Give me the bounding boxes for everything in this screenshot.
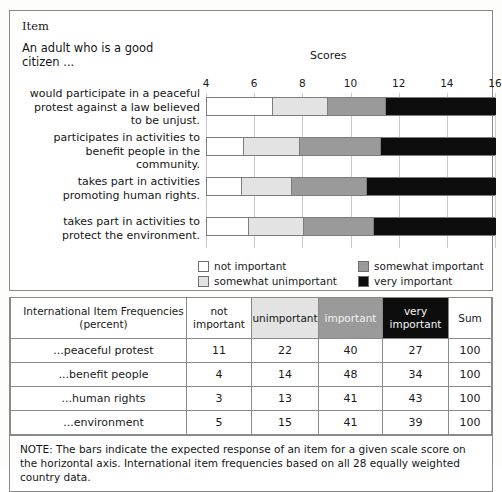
table-header-unimportant: unimportant bbox=[252, 298, 319, 339]
bar-segment-somewhat-unimportant bbox=[243, 138, 298, 155]
table-header-important: important bbox=[319, 298, 383, 339]
bar-row bbox=[206, 97, 495, 116]
table-cell: 14 bbox=[252, 363, 319, 387]
legend-label: somewhat important bbox=[374, 260, 484, 272]
bar-row-label: takes part in activities promoting human… bbox=[24, 175, 200, 202]
table-cell: 43 bbox=[383, 387, 449, 411]
x-tick-label: 12 bbox=[392, 77, 405, 89]
table-row: ...environment5154139100 bbox=[11, 411, 492, 435]
bar-row bbox=[206, 137, 495, 156]
bar-row-label: would participate in a peaceful protest … bbox=[24, 87, 200, 128]
stacked-bar bbox=[206, 217, 495, 236]
table-cell: 41 bbox=[319, 387, 383, 411]
legend-label: somewhat unimportant bbox=[214, 275, 337, 287]
bar-segment-very-important bbox=[385, 98, 496, 115]
table-cell: 48 bbox=[319, 363, 383, 387]
table-cell: 100 bbox=[449, 339, 492, 363]
table-cell: 40 bbox=[319, 339, 383, 363]
table-corner-header: International Item Frequencies (percent) bbox=[11, 298, 187, 339]
bar-segment-not-important bbox=[207, 218, 248, 235]
table-header-very-important: very important bbox=[383, 298, 449, 339]
table-cell: 100 bbox=[449, 411, 492, 435]
bar-row-labels: would participate in a peaceful protest … bbox=[20, 93, 200, 248]
table-cell: 100 bbox=[449, 387, 492, 411]
segment-divider bbox=[299, 138, 300, 155]
bar-segment-not-important bbox=[207, 98, 272, 115]
segment-divider bbox=[327, 98, 328, 115]
segment-divider bbox=[272, 98, 273, 115]
table-row: ...peaceful protest11224027100 bbox=[11, 339, 492, 363]
segment-divider bbox=[291, 178, 292, 195]
bar-row-label: participates in activities to benefit pe… bbox=[24, 131, 200, 172]
x-tick-label: 6 bbox=[251, 77, 258, 89]
stacked-bar bbox=[206, 177, 495, 196]
table-row-label: ...peaceful protest bbox=[11, 339, 187, 363]
x-tick-label: 14 bbox=[440, 77, 453, 89]
legend-swatch-icon bbox=[198, 261, 209, 272]
bar-row bbox=[206, 217, 495, 236]
bar-segment-not-important bbox=[207, 138, 243, 155]
segment-divider bbox=[385, 98, 386, 115]
table-cell: 22 bbox=[252, 339, 319, 363]
table-body: ...peaceful protest11224027100...benefit… bbox=[11, 339, 492, 435]
legend-swatch-icon bbox=[358, 276, 369, 287]
segment-divider bbox=[243, 138, 244, 155]
item-heading: Item bbox=[22, 19, 49, 33]
legend-swatch-icon bbox=[358, 261, 369, 272]
table-header-not-important: not important bbox=[187, 298, 252, 339]
segment-divider bbox=[241, 178, 242, 195]
segment-divider bbox=[303, 218, 304, 235]
legend-label: very important bbox=[374, 275, 452, 287]
legend-swatch-icon bbox=[198, 276, 209, 287]
table-cell: 11 bbox=[187, 339, 252, 363]
bar-segment-not-important bbox=[207, 178, 241, 195]
table-cell: 100 bbox=[449, 363, 492, 387]
x-tick-label: 8 bbox=[299, 77, 306, 89]
table-row-label: ...environment bbox=[11, 411, 187, 435]
table-cell: 13 bbox=[252, 387, 319, 411]
legend-item-somewhat-important: somewhat important bbox=[358, 260, 484, 272]
table-header-sum: Sum bbox=[449, 298, 492, 339]
legend-item-very-important: very important bbox=[358, 275, 452, 287]
table-cell: 27 bbox=[383, 339, 449, 363]
stacked-bar-plot bbox=[206, 93, 495, 248]
x-tick-label: 4 bbox=[203, 77, 210, 89]
table-row: ...benefit people4144834100 bbox=[11, 363, 492, 387]
chart-panel: Item An adult who is a good citizen ... … bbox=[9, 10, 493, 291]
chart-legend: not importantsomewhat unimportantsomewha… bbox=[198, 260, 488, 290]
bar-segment-somewhat-unimportant bbox=[241, 178, 292, 195]
bar-segment-very-important bbox=[373, 218, 496, 235]
bar-row-label: takes part in activities to protect the … bbox=[24, 215, 200, 242]
bar-segment-somewhat-important bbox=[299, 138, 381, 155]
segment-divider bbox=[373, 218, 374, 235]
bar-segment-very-important bbox=[366, 178, 496, 195]
segment-divider bbox=[366, 178, 367, 195]
segment-divider bbox=[248, 218, 249, 235]
table-cell: 4 bbox=[187, 363, 252, 387]
table-cell: 39 bbox=[383, 411, 449, 435]
frequency-table: International Item Frequencies (percent)… bbox=[10, 297, 492, 435]
table-row-label: ...benefit people bbox=[11, 363, 187, 387]
legend-label: not important bbox=[214, 260, 286, 272]
stacked-bar bbox=[206, 97, 495, 116]
stacked-bar bbox=[206, 137, 495, 156]
legend-item-somewhat-unimportant: somewhat unimportant bbox=[198, 275, 337, 287]
x-tick-label: 10 bbox=[344, 77, 357, 89]
table-cell: 5 bbox=[187, 411, 252, 435]
table-row: ...human rights3134143100 bbox=[11, 387, 492, 411]
table-row-label: ...human rights bbox=[11, 387, 187, 411]
bar-segment-somewhat-important bbox=[327, 98, 385, 115]
bar-segment-somewhat-unimportant bbox=[272, 98, 327, 115]
bar-segment-somewhat-important bbox=[291, 178, 366, 195]
x-axis-tick-labels: 46810121416 bbox=[206, 77, 495, 91]
table-cell: 34 bbox=[383, 363, 449, 387]
item-stem: An adult who is a good citizen ... bbox=[22, 41, 172, 69]
legend-item-not-important: not important bbox=[198, 260, 286, 272]
bar-segment-somewhat-important bbox=[303, 218, 373, 235]
scores-axis-title: Scores bbox=[310, 49, 347, 62]
frequency-table-panel: International Item Frequencies (percent)… bbox=[9, 297, 493, 436]
bar-segment-very-important bbox=[380, 138, 496, 155]
table-cell: 15 bbox=[252, 411, 319, 435]
segment-divider bbox=[380, 138, 381, 155]
